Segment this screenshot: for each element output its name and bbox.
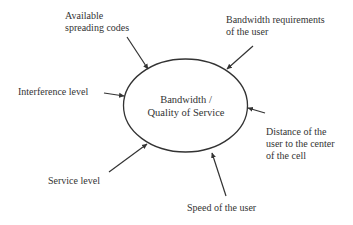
label-line: Available: [65, 10, 129, 22]
label-line: Bandwidth requirements: [226, 14, 325, 26]
arrow-speed-of-user: [212, 153, 226, 196]
label-distance-to-center: Distance of the user to the center of th…: [266, 126, 335, 162]
label-interference-level: Interference level: [18, 86, 88, 98]
label-line: Distance of the: [266, 126, 335, 138]
arrow-available-spreading-codes: [127, 37, 148, 69]
arrow-bandwidth-requirements: [227, 46, 253, 69]
label-available-spreading-codes: Available spreading codes: [65, 10, 129, 34]
label-line: user to the center: [266, 138, 335, 150]
label-speed-of-user: Speed of the user: [187, 202, 256, 214]
label-line: of the user: [226, 26, 325, 38]
center-label-line-1: Bandwidth /: [135, 93, 237, 106]
arrow-interference-level: [104, 93, 124, 96]
label-line: Speed of the user: [187, 202, 256, 214]
arrow-distance-to-center: [248, 108, 265, 113]
label-line: spreading codes: [65, 22, 129, 34]
label-line: Service level: [48, 175, 100, 187]
center-label: Bandwidth / Quality of Service: [135, 93, 237, 119]
arrow-service-level: [109, 144, 147, 172]
label-service-level: Service level: [48, 175, 100, 187]
label-line: Interference level: [18, 86, 88, 98]
label-bandwidth-requirements: Bandwidth requirements of the user: [226, 14, 325, 38]
center-label-line-2: Quality of Service: [135, 106, 237, 119]
label-line: of the cell: [266, 150, 335, 162]
